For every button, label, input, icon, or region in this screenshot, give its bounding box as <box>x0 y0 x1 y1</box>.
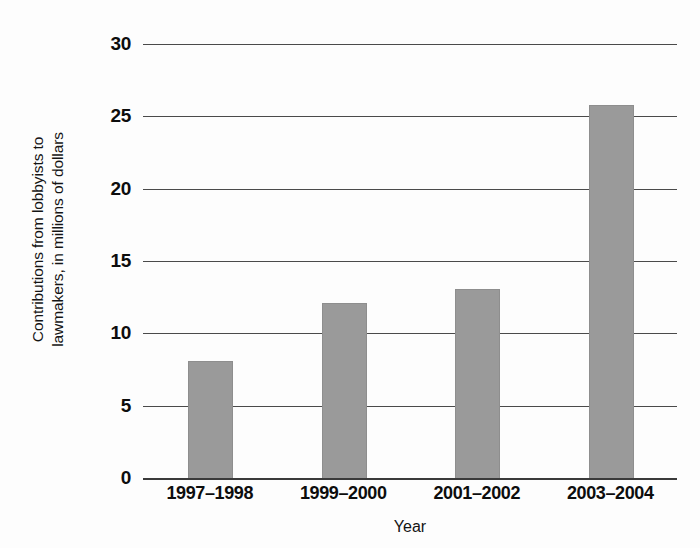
y-axis-tick-label: 5 <box>121 395 131 417</box>
plot-area: 051015202530 <box>143 44 677 478</box>
x-axis-line: 0 <box>143 478 677 480</box>
x-axis-title: Year <box>143 518 677 536</box>
x-axis-tick-label: 1999–2000 <box>300 483 387 504</box>
y-axis-tick-label: 30 <box>110 33 131 55</box>
bar <box>589 105 634 478</box>
bar-chart-figure: Contributions from lobbyists to lawmaker… <box>0 0 700 548</box>
y-axis-tick-label: 0 <box>121 467 131 489</box>
x-axis-tick-label: 2001–2002 <box>434 483 521 504</box>
bar <box>322 303 367 478</box>
y-axis-tick-label: 15 <box>110 250 131 272</box>
x-axis-tick-label: 2003–2004 <box>567 483 654 504</box>
y-axis-title-line-1: Contributions from lobbyists to <box>28 136 48 341</box>
y-axis-tick-label: 25 <box>110 105 131 127</box>
y-axis-title-line-2: lawmakers, in millions of dollars <box>48 132 68 347</box>
x-axis-tick-label: 1997–1998 <box>167 483 254 504</box>
y-axis-tick-label: 20 <box>110 178 131 200</box>
y-axis-tick-label: 10 <box>110 322 131 344</box>
gridline: 30 <box>143 44 677 45</box>
x-axis-tick-labels: 1997–19981999–20002001–20022003–2004 <box>143 483 677 513</box>
y-axis-title: Contributions from lobbyists to lawmaker… <box>0 0 96 478</box>
bar <box>455 289 500 478</box>
bar <box>188 361 233 478</box>
